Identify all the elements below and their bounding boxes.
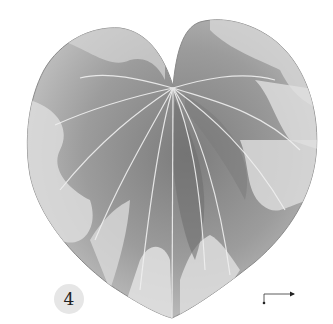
figure-number-badge: 4: [54, 284, 84, 314]
leaf-blade: [20, 20, 320, 320]
leaf-illustration: [0, 0, 333, 324]
figure-number: 4: [64, 289, 75, 309]
scale-bar-icon: [260, 288, 300, 308]
